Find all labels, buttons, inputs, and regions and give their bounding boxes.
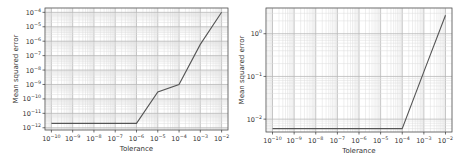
- x-axis-label: Tolerance: [341, 147, 375, 155]
- plot-area: [266, 8, 452, 132]
- y-tick-label: 10−10: [23, 94, 41, 103]
- y-tick-label: 10−8: [26, 66, 41, 75]
- x-axis-label: Tolerance: [119, 145, 153, 153]
- x-tick-label: 10−7: [108, 134, 123, 143]
- y-tick-label: 10−2: [247, 115, 262, 124]
- mse-chart-left: 10−1010−910−810−710−610−510−410−310−2Tol…: [0, 0, 235, 156]
- x-tick-label: 10−4: [395, 136, 410, 145]
- x-tick-label: 10−10: [263, 136, 281, 145]
- plot-area: [45, 8, 228, 130]
- y-tick-label: 10−9: [26, 80, 41, 89]
- y-tick-label: 10−11: [23, 109, 41, 118]
- y-axis-label: Mean squared error: [12, 35, 20, 104]
- x-tick-label: 10−6: [129, 134, 144, 143]
- y-tick-label: 10−1: [247, 72, 262, 81]
- y-tick-label: 100: [251, 29, 262, 38]
- x-tick-label: 10−3: [416, 136, 431, 145]
- x-tick-label: 10−5: [373, 136, 388, 145]
- gridlines: [45, 8, 228, 130]
- x-tick-label: 10−8: [308, 136, 323, 145]
- y-tick-label: 10−5: [26, 22, 41, 31]
- y-tick-label: 10−6: [26, 37, 41, 46]
- y-tick-label: 10−7: [26, 51, 41, 60]
- y-tick-label: 10−12: [23, 123, 41, 132]
- x-tick-label: 10−9: [65, 134, 80, 143]
- x-tick-label: 10−5: [150, 134, 165, 143]
- x-axis: 10−1010−910−810−710−610−510−410−310−2Tol…: [263, 132, 453, 155]
- y-axis-label: Mean squared error: [238, 36, 246, 105]
- x-tick-label: 10−4: [171, 134, 186, 143]
- x-tick-label: 10−2: [438, 136, 453, 145]
- y-axis: 10−210−1100Mean squared error: [238, 29, 266, 123]
- y-tick-label: 10−4: [26, 8, 41, 17]
- y-axis: 10−1210−1110−1010−910−810−710−610−510−4M…: [12, 8, 45, 132]
- x-tick-label: 10−8: [86, 134, 101, 143]
- x-tick-label: 10−2: [214, 134, 229, 143]
- x-tick-label: 10−9: [286, 136, 301, 145]
- x-tick-label: 10−10: [42, 134, 60, 143]
- x-tick-label: 10−6: [351, 136, 366, 145]
- chart-panel-left: 10−1010−910−810−710−610−510−410−310−2Tol…: [0, 0, 235, 156]
- x-tick-label: 10−3: [193, 134, 208, 143]
- chart-panel-right: 10−1010−910−810−710−610−510−410−310−2Tol…: [235, 0, 471, 156]
- x-axis: 10−1010−910−810−710−610−510−410−310−2Tol…: [42, 130, 229, 153]
- x-tick-label: 10−7: [330, 136, 345, 145]
- mse-chart-right: 10−1010−910−810−710−610−510−410−310−2Tol…: [235, 0, 471, 156]
